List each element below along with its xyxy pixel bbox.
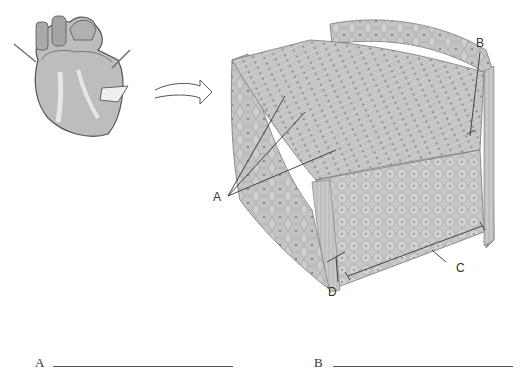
label-b: B bbox=[476, 36, 484, 50]
answer-b-letter: B bbox=[314, 355, 323, 370]
curved-arrow-icon bbox=[155, 80, 212, 104]
tissue-block bbox=[231, 20, 494, 292]
label-c: C bbox=[456, 261, 465, 275]
answer-a-line[interactable] bbox=[53, 366, 233, 367]
label-d: D bbox=[328, 285, 337, 299]
answer-a-letter: A bbox=[35, 355, 44, 370]
answer-b-line[interactable] bbox=[333, 366, 513, 367]
label-a: A bbox=[213, 190, 221, 204]
cardiac-muscle-figure: A B C D bbox=[0, 0, 525, 300]
heart-illustration bbox=[14, 16, 130, 136]
